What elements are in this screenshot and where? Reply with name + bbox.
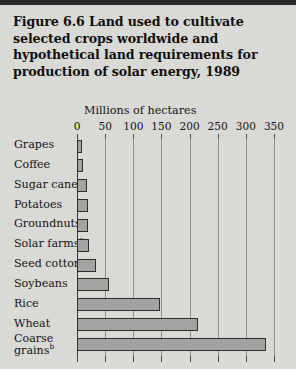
bar	[77, 259, 96, 272]
bar	[77, 318, 198, 331]
x-axis-tick-label: 150	[151, 120, 171, 132]
category-label: Solar farmsa	[14, 238, 84, 250]
x-axis-tick-label: 100	[123, 120, 143, 132]
x-axis-tick-mark-bottom	[77, 356, 78, 362]
gridline	[218, 138, 219, 356]
category-label: Seed cotton	[14, 258, 81, 270]
bar	[77, 338, 266, 351]
x-axis-tick-mark-bottom	[161, 356, 162, 362]
category-label: Groundnuts	[14, 218, 81, 230]
x-axis-tick-label: 350	[264, 120, 284, 132]
gridline	[274, 138, 275, 356]
category-label: Grapes	[14, 139, 54, 151]
x-axis-tick-label: 300	[236, 120, 256, 132]
plot-area: 050100150200250300350GrapesCoffeeSugar c…	[0, 120, 296, 362]
x-axis-tick-label: 50	[98, 120, 111, 132]
category-label: Coffee	[14, 159, 50, 171]
top-border-band	[0, 0, 296, 5]
x-axis-tick-label: 250	[208, 120, 228, 132]
bar	[77, 278, 109, 291]
x-axis-title: Millions of hectares	[84, 104, 196, 117]
x-axis-tick-label: 200	[179, 120, 199, 132]
x-axis-tick-mark-bottom	[105, 356, 106, 362]
bar	[77, 179, 87, 192]
x-axis-tick-label: 0	[74, 120, 81, 132]
bottom-border-band	[0, 369, 296, 375]
category-label: Coarsegrainsb	[14, 333, 54, 358]
bar	[77, 239, 89, 252]
category-label: Rice	[14, 298, 39, 310]
gridline	[246, 138, 247, 356]
figure-panel: Figure 6.6 Land used to cultivate select…	[0, 0, 296, 375]
bar	[77, 219, 88, 232]
bar	[77, 199, 88, 212]
figure-title: Figure 6.6 Land used to cultivate select…	[13, 14, 285, 80]
x-axis-tick-mark-bottom	[133, 356, 134, 362]
x-axis-tick-mark-bottom	[190, 356, 191, 362]
x-axis-tick-mark-bottom	[274, 356, 275, 362]
x-axis-tick-mark-bottom	[218, 356, 219, 362]
bar	[77, 298, 160, 311]
category-label: Wheat	[14, 318, 50, 330]
x-axis-tick-mark-bottom	[246, 356, 247, 362]
category-label: Sugar cane	[14, 179, 78, 191]
category-label: Soybeans	[14, 278, 68, 290]
bar	[77, 140, 82, 153]
bar	[77, 159, 83, 172]
category-label: Potatoes	[14, 199, 62, 211]
